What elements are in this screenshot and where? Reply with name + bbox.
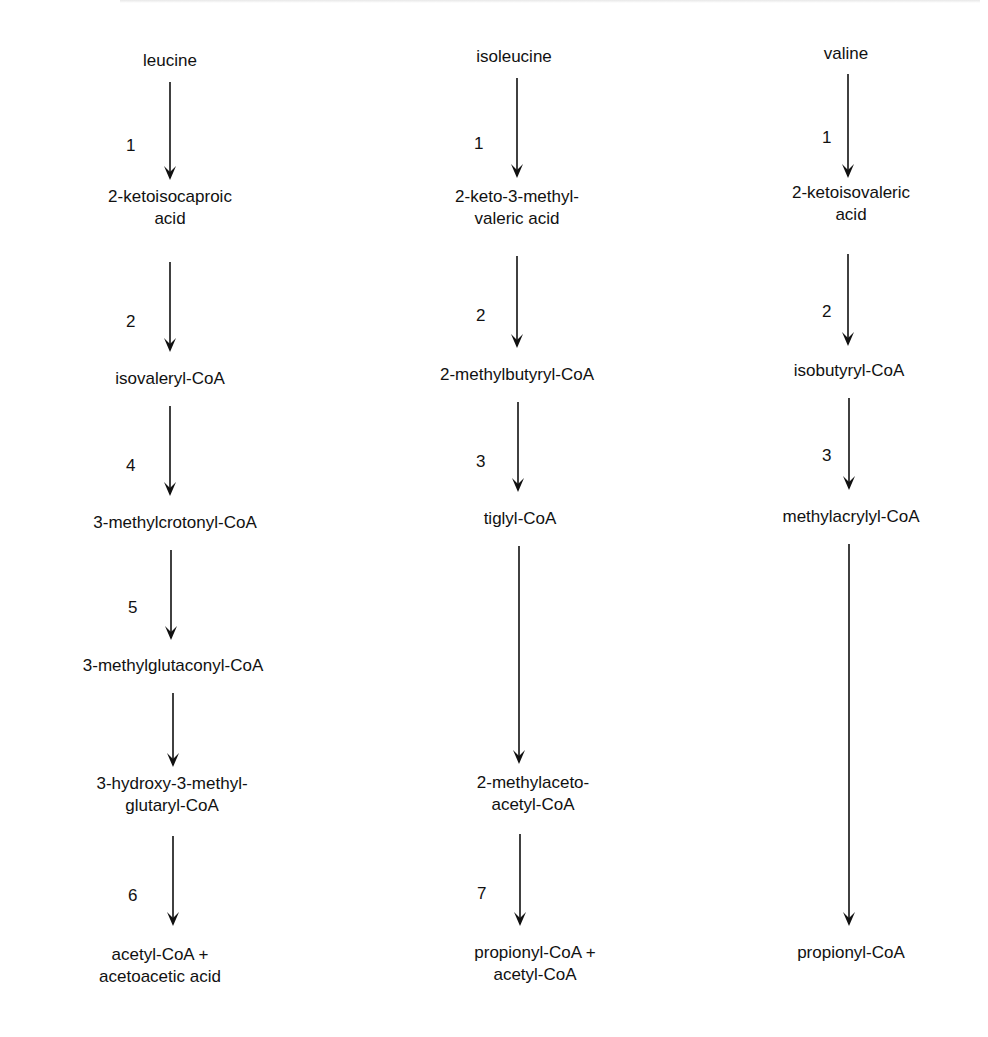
arrow-down-icon <box>841 398 857 490</box>
arrow-down-icon <box>162 406 178 496</box>
node-2-methylacetoacetyl-coa: 2-methylaceto-acetyl-CoA <box>477 772 589 816</box>
node-hmg-coa: 3-hydroxy-3-methyl-glutaryl-CoA <box>96 773 247 817</box>
node-3-methylcrotonyl-coa: 3-methylcrotonyl-CoA <box>93 512 256 534</box>
arrow-down-icon <box>840 254 856 346</box>
arrow-down-icon <box>165 693 181 767</box>
arrow-down-icon <box>512 834 528 926</box>
node-2-keto-3-methylvaleric-acid: 2-keto-3-methyl-valeric acid <box>455 186 579 230</box>
arrow-down-icon <box>163 550 179 640</box>
step-label: 2 <box>822 302 831 322</box>
arrow-down-icon <box>840 74 856 178</box>
step-label: 5 <box>128 598 137 618</box>
node-2-methylbutyryl-coa: 2-methylbutyryl-CoA <box>440 364 594 386</box>
page-header-edge <box>120 0 980 3</box>
arrow-down-icon <box>509 256 525 348</box>
arrow-down-icon <box>510 402 526 492</box>
arrow-down-icon <box>841 544 857 926</box>
arrow-down-icon <box>509 78 525 178</box>
step-label: 2 <box>126 312 135 332</box>
arrow-down-icon <box>511 546 527 764</box>
node-isobutyryl-coa: isobutyryl-CoA <box>794 360 905 382</box>
node-propionyl-coa: propionyl-CoA <box>797 942 905 964</box>
node-isoleucine: isoleucine <box>476 46 552 68</box>
step-label: 2 <box>476 306 485 326</box>
arrow-down-icon <box>162 82 178 180</box>
step-label: 7 <box>477 884 486 904</box>
step-label: 4 <box>126 456 135 476</box>
node-2-ketoisocaproic-acid: 2-ketoisocaproicacid <box>108 186 232 230</box>
step-label: 1 <box>822 128 831 148</box>
arrow-down-icon <box>165 836 181 926</box>
step-label: 1 <box>126 136 135 156</box>
node-acetyl-coa-acetoacetic-acid: acetyl-CoA +acetoacetic acid <box>99 944 221 988</box>
step-label: 1 <box>474 134 483 154</box>
node-tiglyl-coa: tiglyl-CoA <box>484 508 557 530</box>
arrow-down-icon <box>162 262 178 352</box>
node-propionyl-coa-acetyl-coa: propionyl-CoA +acetyl-CoA <box>474 942 595 986</box>
step-label: 6 <box>128 886 137 906</box>
node-leucine: leucine <box>143 50 197 72</box>
node-methylacrylyl-coa: methylacrylyl-CoA <box>783 506 920 528</box>
step-label: 3 <box>476 452 485 472</box>
node-2-ketoisovaleric-acid: 2-ketoisovalericacid <box>792 182 910 226</box>
node-isovaleryl-coa: isovaleryl-CoA <box>115 368 225 390</box>
node-3-methylglutaconyl-coa: 3-methylglutaconyl-CoA <box>83 655 263 677</box>
node-valine: valine <box>824 43 868 65</box>
step-label: 3 <box>822 446 831 466</box>
